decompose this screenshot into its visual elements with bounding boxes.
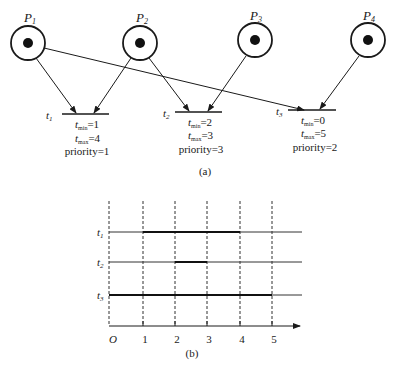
tmin-value: tmin=2	[188, 116, 212, 129]
x-tick-label: 5	[271, 333, 277, 345]
timeline-row-t2: t2	[97, 256, 302, 270]
dashed-gridlines	[109, 201, 272, 326]
tmin-value: tmin=1	[75, 118, 99, 131]
timeline-row-t1: t1	[97, 226, 302, 240]
arc-p4-t3	[320, 56, 359, 109]
x-tick-label: 3	[206, 333, 212, 345]
tmax-value: tmax=4	[75, 132, 101, 145]
origin-label: O	[109, 333, 117, 345]
x-tick-label: 1	[142, 333, 148, 345]
arc-p1-t1	[36, 58, 76, 113]
transition-t3: t3 tmin=0 tmax=5 priority=2	[276, 105, 337, 153]
place-label: P4	[362, 8, 375, 24]
place-p1: P1	[11, 10, 45, 60]
transition-label: t2	[163, 107, 170, 121]
place-label: P2	[135, 10, 148, 26]
priority-value: priority=1	[65, 145, 110, 157]
arcs	[36, 48, 359, 113]
row-label: t1	[97, 226, 104, 240]
place-p2: P2	[123, 10, 157, 60]
x-axis-ticks	[143, 321, 272, 326]
token-dot-icon	[363, 35, 373, 45]
place-label: P1	[23, 10, 36, 26]
priority-value: priority=3	[179, 143, 224, 155]
tmax-value: tmax=3	[188, 129, 214, 142]
tmax-value: tmax=5	[301, 127, 327, 140]
token-dot-icon	[135, 38, 145, 48]
place-label: P3	[249, 8, 262, 24]
arc-p1-t3	[44, 48, 304, 110]
arc-p2-t1	[94, 58, 131, 113]
transition-t1: t1 tmin=1 tmax=4 priority=1	[46, 109, 109, 157]
figure-b-timeline: O 1 2 3 4 5 t1 t2 t3 (b)	[97, 201, 302, 360]
arc-p2-t2	[149, 58, 189, 111]
petri-net-figure: P1 P2 P3 P4	[0, 0, 399, 370]
transition-label: t1	[46, 109, 53, 123]
tmin-value: tmin=0	[301, 114, 326, 127]
place-p4: P4	[351, 8, 385, 57]
token-dot-icon	[250, 35, 260, 45]
x-tick-label: 2	[174, 333, 180, 345]
transition-t2: t2 tmin=2 tmax=3 priority=3	[163, 107, 224, 155]
place-p3: P3	[238, 8, 272, 57]
timeline-row-t3: t3	[97, 289, 302, 303]
caption-b: (b)	[186, 347, 199, 360]
arc-p3-t2	[208, 56, 246, 111]
x-tick-label: 4	[239, 333, 245, 345]
transition-label: t3	[276, 105, 283, 119]
figure-a: P1 P2 P3 P4	[11, 8, 385, 178]
row-label: t3	[97, 289, 104, 303]
caption-a: (a)	[199, 165, 212, 178]
token-dot-icon	[23, 38, 33, 48]
priority-value: priority=2	[293, 141, 338, 153]
row-label: t2	[97, 256, 104, 270]
